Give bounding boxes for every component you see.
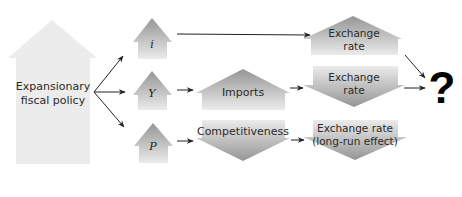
- var-P-label: P: [148, 140, 157, 153]
- connector-to-P: [94, 92, 124, 127]
- fiscal-policy-diagram: Expansionary fiscal policy i Y P Imports: [0, 0, 462, 197]
- interest-rate-up-arrow: i: [133, 18, 172, 59]
- competitiveness-label: Competitiveness: [197, 125, 289, 138]
- exchange-down-label-line1: Exchange: [328, 71, 379, 83]
- source-label-line1: Expansionary: [16, 80, 91, 93]
- connector-i-to-exchange: [177, 34, 310, 35]
- imports-label: Imports: [222, 86, 265, 99]
- exchange-longrun-label-line1: Exchange rate: [317, 122, 393, 134]
- connector-to-i: [94, 56, 123, 92]
- imports-up-arrow: Imports: [196, 69, 290, 110]
- price-level-up-arrow: P: [134, 123, 173, 163]
- fan-connectors: [94, 56, 125, 127]
- exchange-up-label-line2: rate: [343, 40, 364, 52]
- exchange-down-label-line2: rate: [343, 84, 364, 96]
- expansionary-fiscal-policy-arrow: Expansionary fiscal policy: [8, 20, 97, 164]
- connector-exchange-up-to-result: [405, 55, 425, 78]
- exchange-longrun-label-line2: (long-run effect): [312, 135, 398, 147]
- ambiguous-result-question-mark: ?: [429, 63, 456, 112]
- var-i-label: i: [150, 38, 154, 51]
- exchange-rate-down-arrow: Exchange rate: [303, 66, 405, 107]
- source-label-line2: fiscal policy: [21, 94, 86, 107]
- exchange-rate-longrun-down-arrow: Exchange rate (long-run effect): [303, 120, 407, 160]
- exchange-rate-up-arrow: Exchange rate: [303, 16, 402, 55]
- exchange-up-label-line1: Exchange: [328, 27, 379, 39]
- income-up-arrow: Y: [133, 71, 172, 110]
- competitiveness-down-arrow: Competitiveness: [196, 120, 290, 161]
